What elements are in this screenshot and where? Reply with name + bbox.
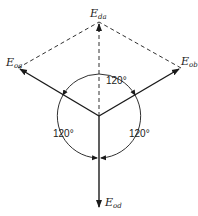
- angle-arc-left: [57, 95, 97, 158]
- angle-arc-right: [101, 95, 141, 158]
- angle-label-top: 120°: [106, 75, 127, 86]
- angle-label-left: 120°: [53, 128, 74, 139]
- label-e-da: Eda: [89, 7, 107, 21]
- dashed-line-oa-da: [18, 22, 99, 68]
- angle-arc-top-left: [63, 74, 99, 95]
- label-e-oa: Eoa: [5, 56, 22, 70]
- angle-label-right: 120°: [129, 128, 150, 139]
- phasor-diagram: Eda Eoa Eob Eod 120° 120° 120°: [0, 0, 198, 216]
- label-e-ob: Eob: [180, 55, 198, 69]
- label-e-od: Eod: [104, 196, 122, 210]
- dashed-line-ob-da: [99, 22, 181, 68]
